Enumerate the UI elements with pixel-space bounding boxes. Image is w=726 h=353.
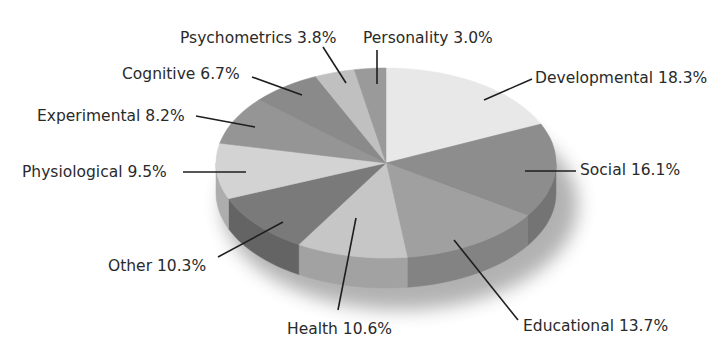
slice-label-educational: Educational 13.7% [523,317,668,335]
slice-label-psychometrics: Psychometrics 3.8% [180,29,336,47]
pie-chart: Developmental 18.3%Social 16.1%Education… [0,0,726,353]
slice-label-personality: Personality 3.0% [363,29,493,47]
slice-label-health: Health 10.6% [287,320,392,338]
slice-label-cognitive: Cognitive 6.7% [122,65,240,83]
slice-label-other: Other 10.3% [108,257,206,275]
slice-label-experimental: Experimental 8.2% [37,107,185,125]
slice-label-social: Social 16.1% [580,161,680,179]
slice-label-physiological: Physiological 9.5% [22,163,167,181]
pie-slices [216,68,556,258]
slice-label-developmental: Developmental 18.3% [535,69,707,87]
